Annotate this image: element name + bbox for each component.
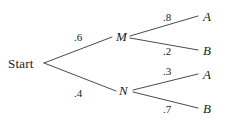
node-leaf-a-upper: A <box>203 10 211 23</box>
edge-probability-start-n: .4 <box>74 88 82 99</box>
node-leaf-b-lower: B <box>203 102 211 115</box>
node-leaf-b-upper: B <box>203 44 211 57</box>
node-m: M <box>116 30 127 43</box>
edge-probability-m-b: .2 <box>163 46 171 57</box>
tree-edges-svg <box>0 0 227 123</box>
probability-tree-diagram: Start M N A B A B .6 .4 .8 .2 .3 .7 <box>0 0 227 123</box>
edge-probability-m-a: .8 <box>163 12 171 23</box>
node-start: Start <box>8 57 34 70</box>
edge-probability-start-m: .6 <box>74 32 82 43</box>
edge-probability-n-a: .3 <box>163 66 171 77</box>
node-n: N <box>119 84 128 97</box>
edge-probability-n-b: .7 <box>163 104 171 115</box>
node-leaf-a-lower: A <box>203 68 211 81</box>
